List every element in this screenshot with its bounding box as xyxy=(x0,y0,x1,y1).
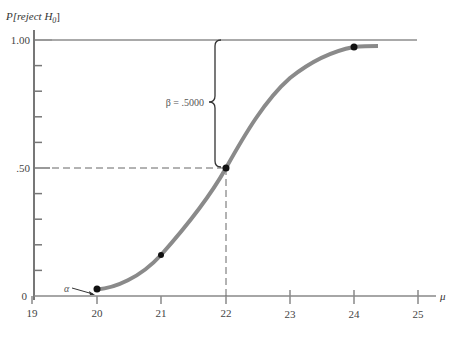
data-point-21 xyxy=(158,252,164,258)
data-point-22 xyxy=(223,165,230,172)
svg-text:22: 22 xyxy=(221,307,232,319)
y-tick-label-1: 1.00 xyxy=(11,34,31,46)
x-tick-labels: 19 20 21 22 23 24 25 xyxy=(27,307,425,320)
power-curve-line xyxy=(97,46,378,290)
svg-text:24: 24 xyxy=(349,308,361,320)
y-tick-label-050: .50 xyxy=(16,162,30,174)
alpha-arrowhead xyxy=(89,291,95,295)
svg-text:20: 20 xyxy=(92,307,104,319)
beta-brace xyxy=(209,40,221,167)
alpha-label: α xyxy=(64,283,70,294)
y-axis-title: P[reject H0] xyxy=(5,10,60,25)
beta-label: β = .5000 xyxy=(166,97,204,108)
svg-text:25: 25 xyxy=(413,308,425,320)
data-point-24 xyxy=(351,44,358,51)
svg-text:19: 19 xyxy=(27,307,39,319)
y-tick-label-0: 0 xyxy=(22,290,28,302)
svg-text:21: 21 xyxy=(156,307,167,319)
y-ticks xyxy=(34,40,52,270)
svg-text:23: 23 xyxy=(285,308,297,320)
data-point-20 xyxy=(94,286,101,293)
power-curve-chart: P[reject H0] 1.00 .50 0 μ 19 20 21 22 xyxy=(0,0,456,339)
x-axis-title: μ xyxy=(439,290,446,302)
